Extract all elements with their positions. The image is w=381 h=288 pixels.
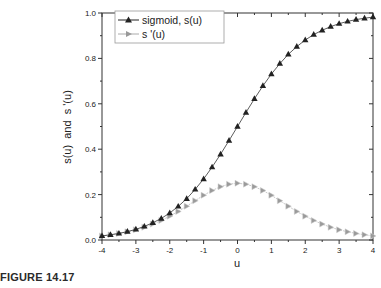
x-tick-label: 1 [269, 246, 274, 255]
axis-ticks: -4-3-2-1012340.00.20.40.60.81.0 [85, 9, 376, 255]
data-point [302, 37, 308, 43]
x-tick-label: 4 [371, 246, 376, 255]
y-tick-label: 0.0 [85, 236, 97, 245]
data-point [277, 198, 283, 204]
data-point [328, 224, 334, 230]
data-point [252, 184, 258, 190]
data-point [354, 230, 360, 236]
y-tick-label: 0.2 [85, 191, 97, 200]
data-point [286, 203, 292, 209]
data-point [311, 217, 317, 223]
data-point [227, 181, 233, 187]
data-point [251, 95, 257, 101]
legend-label-derivative: s '(u) [142, 28, 165, 40]
data-point [243, 109, 249, 115]
x-tick-label: -1 [200, 246, 208, 255]
data-point [201, 192, 207, 198]
series-layer [99, 14, 376, 239]
data-point [294, 208, 300, 214]
data-point [235, 180, 241, 186]
y-tick-label: 0.6 [85, 100, 97, 109]
data-point [226, 137, 232, 143]
legend: sigmoid, s(u) s '(u) [115, 11, 224, 43]
sigmoid-chart: -4-3-2-1012340.00.20.40.60.81.0 u s(u) a… [0, 0, 381, 288]
x-axis-label: u [234, 257, 240, 269]
x-tick-label: -4 [98, 246, 106, 255]
data-point [234, 123, 240, 129]
data-point [303, 213, 309, 219]
series-sigmoid [99, 14, 376, 239]
figure-caption: FIGURE 14.17 [0, 271, 75, 283]
x-tick-label: 3 [337, 246, 342, 255]
legend-label-sigmoid: sigmoid, s(u) [142, 14, 202, 26]
data-point [218, 184, 224, 190]
data-point [320, 221, 326, 227]
y-tick-label: 1.0 [85, 9, 97, 18]
y-tick-label: 0.8 [85, 54, 97, 63]
data-point [210, 188, 216, 194]
x-tick-label: -2 [166, 246, 174, 255]
data-point [269, 192, 275, 198]
x-tick-label: -3 [132, 246, 140, 255]
x-tick-label: 0 [235, 246, 240, 255]
data-point [362, 232, 368, 238]
data-point [243, 181, 249, 187]
data-point [209, 164, 215, 170]
x-tick-label: 2 [303, 246, 308, 255]
data-point [175, 203, 181, 209]
data-point [217, 151, 223, 157]
data-point [176, 208, 182, 214]
data-point [193, 198, 199, 204]
data-point [370, 14, 376, 20]
y-axis-label: s(u) and s '(u) [61, 90, 73, 164]
series-derivative [100, 180, 377, 239]
data-point [337, 227, 343, 233]
data-point [260, 188, 266, 194]
data-point [311, 31, 317, 37]
data-point [345, 229, 351, 235]
data-point [285, 51, 291, 57]
y-tick-label: 0.4 [85, 145, 97, 154]
data-point [167, 209, 173, 215]
data-point [294, 43, 300, 49]
data-point [184, 203, 190, 209]
